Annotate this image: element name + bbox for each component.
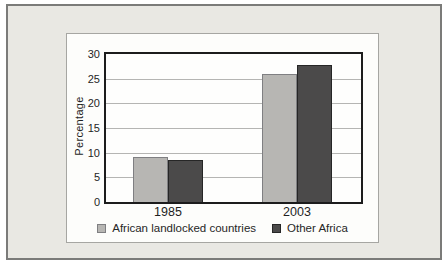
bar-1985-series-1 — [168, 160, 203, 202]
legend-swatch-icon — [97, 224, 106, 233]
y-tick-label-20: 20 — [58, 97, 100, 109]
y-tick-label-25: 25 — [58, 73, 100, 85]
bar-2003-series-1 — [297, 65, 332, 202]
legend-item-1: Other Africa — [272, 222, 348, 234]
legend-label-1: Other Africa — [287, 222, 348, 234]
bar-2003-series-0 — [262, 74, 297, 202]
y-tick-label-0: 0 — [58, 196, 100, 208]
plot-area — [104, 52, 363, 204]
legend-item-0: African landlocked countries — [97, 222, 256, 234]
bar-1985-series-0 — [133, 157, 168, 202]
x-label-2003: 2003 — [262, 205, 332, 219]
y-tick-label-30: 30 — [58, 48, 100, 60]
y-tick-label-5: 5 — [58, 171, 100, 183]
legend-label-0: African landlocked countries — [112, 222, 256, 234]
legend-swatch-icon — [272, 224, 281, 233]
y-tick-label-10: 10 — [58, 147, 100, 159]
y-tick-label-15: 15 — [58, 122, 100, 134]
x-label-1985: 1985 — [133, 205, 203, 219]
legend: African landlocked countriesOther Africa — [67, 220, 378, 236]
